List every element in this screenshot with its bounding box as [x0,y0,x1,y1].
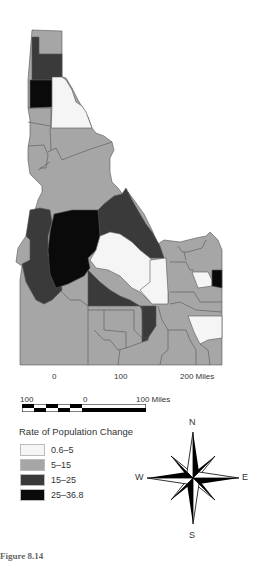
axis-tick-100: 100 [114,372,127,381]
legend-label: 15–25 [51,475,76,485]
compass-east-label: E [242,472,248,482]
county-teton [212,270,222,288]
legend-swatch [20,489,45,501]
compass-south-label: S [189,530,195,540]
county-bonner [30,80,52,108]
scale-bar [22,404,146,412]
compass-north-label: N [189,417,196,427]
legend-swatch [20,459,45,471]
legend-label: 25–36.8 [51,490,84,500]
axis-tick-200: 200 Miles [180,372,214,381]
legend-item: 15–25 [20,473,76,486]
legend-item: 0.6–5 [20,443,74,456]
legend-title: Rate of Population Change [19,426,133,437]
legend-swatch [20,474,45,486]
legend-swatch [20,444,45,456]
axis-tick-0: 0 [52,372,56,381]
county-shoshone [51,77,92,128]
legend-item: 25–36.8 [20,488,84,501]
scale-left-label: 100 [20,395,33,404]
legend-item: 5–15 [20,458,71,471]
figure-caption: Figure 8.14 [0,551,43,561]
legend-label: 0.6–5 [51,445,74,455]
legend-label: 5–15 [51,460,71,470]
scale-center-label: 0 [83,395,87,404]
compass-rose-icon [143,428,243,528]
choropleth-map [0,0,260,400]
compass-west-label: W [135,472,144,482]
scale-right-label: 100 Miles [136,395,170,404]
